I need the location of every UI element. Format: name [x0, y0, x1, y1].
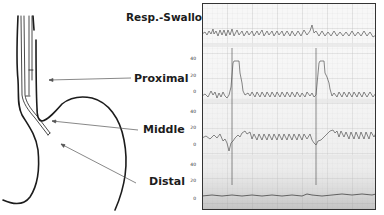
middle-tick-0: 0	[182, 142, 196, 147]
middle-tick-40: 40	[182, 109, 196, 114]
proximal-tick-20: 20	[182, 73, 196, 78]
stomach-outline	[33, 16, 126, 210]
proximal-tick-0: 0	[182, 89, 196, 94]
distal-label: Distal	[149, 175, 185, 188]
middle-tick-20: 20	[182, 125, 196, 130]
proximal-tick-40: 40	[182, 56, 196, 61]
middle-pointer	[52, 121, 138, 130]
pressure-recording-panel	[202, 3, 376, 210]
manometry-figure: Resp.-Swallow Proximal Middle Distal 40 …	[0, 0, 384, 215]
distal-tick-0: 0	[182, 196, 196, 201]
catheter-tube-2	[24, 16, 50, 133]
resp-swallow-label: Resp.-Swallow	[126, 11, 212, 23]
proximal-pointer	[49, 78, 131, 80]
distal-tick-40: 40	[182, 162, 196, 167]
pressure-chart	[202, 3, 376, 210]
esophagus-left-wall	[3, 16, 39, 203]
middle-label: Middle	[143, 123, 185, 136]
proximal-label: Proximal	[134, 72, 189, 85]
distal-tick-20: 20	[182, 178, 196, 183]
